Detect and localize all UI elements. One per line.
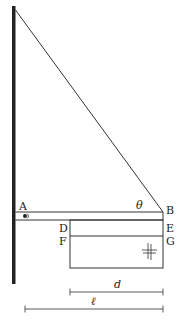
label-theta: θ: [136, 199, 143, 212]
label-a: A: [18, 200, 28, 213]
label-b: B: [166, 204, 174, 217]
hinge-icon: [23, 214, 28, 219]
label-d-point: D: [59, 222, 68, 235]
label-g: G: [166, 235, 175, 248]
sign-box: [70, 220, 163, 268]
rope: [16, 10, 164, 212]
label-d-dimension: d: [114, 278, 121, 291]
label-e: E: [166, 222, 174, 235]
label-f: F: [59, 235, 67, 248]
center-of-mass-icon: [142, 243, 157, 260]
label-l-dimension: ℓ: [91, 295, 96, 308]
beam: [16, 212, 164, 220]
wall: [12, 6, 16, 284]
